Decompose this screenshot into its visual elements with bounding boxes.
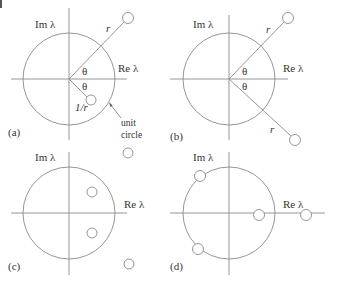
panel-label: (d) — [170, 260, 183, 273]
imag-axis-label: Im λ — [193, 18, 214, 30]
inverse-r-label: 1/r — [75, 101, 89, 113]
r-upper-label: r — [266, 23, 271, 35]
imag-axis-label: Im λ — [193, 151, 214, 163]
eigenvalue-diagram: Im λ Re λ r θ θ 1/r unit circle (a) Im λ… — [0, 0, 337, 281]
radius-line-lower — [229, 79, 291, 136]
pole-on-circle-lower — [193, 244, 204, 255]
r-label: r — [106, 22, 111, 34]
pole-outer-real — [301, 210, 312, 221]
pole-outer-upper — [123, 148, 133, 158]
imag-axis-label: Im λ — [35, 18, 56, 30]
pole-upper — [283, 13, 294, 24]
pole-inner-upper — [87, 187, 97, 197]
pole-outer — [123, 13, 134, 24]
imag-axis-label: Im λ — [35, 151, 56, 163]
pole-on-circle-upper — [195, 171, 206, 182]
radius-line — [69, 22, 124, 79]
theta-upper-label: θ — [82, 65, 87, 77]
panel-b: Im λ Re λ r r θ θ (b) — [170, 13, 304, 146]
panel-c: Im λ Re λ (c) — [8, 148, 145, 275]
circle-label: circle — [121, 130, 142, 140]
real-axis-label: Re λ — [283, 198, 304, 210]
panel-label: (a) — [8, 126, 21, 139]
panel-label: (c) — [8, 260, 21, 273]
pole-inner-lower — [87, 228, 97, 238]
panel-d: Im λ Re λ (d) — [170, 151, 325, 275]
theta-lower-label: θ — [82, 80, 87, 92]
panel-a: Im λ Re λ r θ θ 1/r unit circle (a) — [8, 8, 142, 140]
r-lower-label: r — [270, 123, 275, 135]
pole-lower — [290, 135, 301, 146]
real-axis-label: Re λ — [124, 198, 145, 210]
unit-label: unit — [121, 118, 136, 128]
panel-label: (b) — [170, 130, 183, 143]
pole-outer-lower — [124, 259, 134, 269]
real-axis-label: Re λ — [118, 62, 139, 74]
theta-lower-label: θ — [242, 80, 247, 92]
real-axis-label: Re λ — [283, 62, 304, 74]
pole-inner-real — [254, 210, 265, 221]
theta-upper-label: θ — [242, 65, 247, 77]
radius-line-upper — [229, 22, 284, 79]
